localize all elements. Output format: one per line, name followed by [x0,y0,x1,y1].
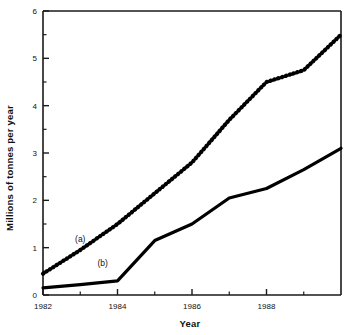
x-tick-label: 1988 [258,302,276,311]
y-tick-label: 4 [33,102,38,111]
y-axis-tick-labels: 0123456 [33,7,38,300]
series-line-b [43,148,341,288]
series-line-a [43,35,341,274]
chart-figure: 0123456 1982198419861988 (a) (b) Year Mi… [0,0,356,335]
x-tick-label: 1982 [34,302,52,311]
y-tick-label: 5 [33,54,38,63]
x-axis-ticks [43,289,304,295]
plot-frame [43,11,341,295]
y-tick-label: 6 [33,7,38,16]
y-axis-title: Millions of tonnes per year [4,105,15,231]
data-series-layer [43,35,341,288]
series-annotation-a: (a) [75,234,86,244]
x-axis-title: Year [180,318,201,329]
y-tick-label: 3 [33,149,38,158]
y-tick-label: 1 [33,244,38,253]
series-annotation-b: (b) [97,258,108,268]
x-axis-tick-labels: 1982198419861988 [34,302,276,311]
line-chart-svg: 0123456 1982198419861988 (a) (b) Year Mi… [0,0,356,335]
y-tick-label: 2 [33,196,38,205]
x-tick-label: 1986 [183,302,201,311]
y-axis-ticks [43,11,49,295]
y-tick-label: 0 [33,291,38,300]
x-tick-label: 1984 [109,302,127,311]
